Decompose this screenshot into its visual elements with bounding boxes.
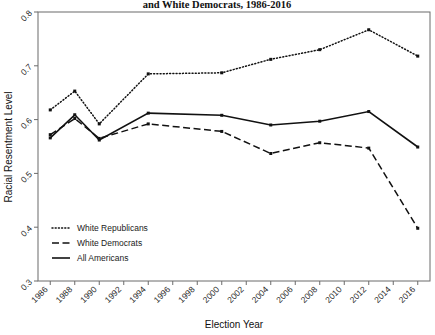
data-point <box>318 48 321 51</box>
data-point <box>147 112 150 115</box>
x-tick-label: 1988 <box>54 284 75 305</box>
data-point <box>220 130 223 133</box>
data-point <box>49 136 52 139</box>
data-point <box>73 117 76 120</box>
data-point <box>269 58 272 61</box>
data-point <box>416 146 419 149</box>
x-tick-label: 2000 <box>201 284 222 305</box>
data-point <box>147 72 150 75</box>
y-tick-label: 0.7 <box>19 62 35 78</box>
x-tick-label: 2014 <box>372 284 393 305</box>
x-tick-label: 2016 <box>397 284 418 305</box>
series-group <box>49 28 420 230</box>
data-point <box>49 108 52 111</box>
data-point <box>367 28 370 31</box>
data-point <box>416 55 419 58</box>
x-tick-label: 1996 <box>152 284 173 305</box>
x-tick-label: 1994 <box>127 284 148 305</box>
chart-legend: White RepublicansWhite DemocratsAll Amer… <box>52 223 148 263</box>
x-tick-label: 2012 <box>348 284 369 305</box>
chart-container: and White Democrats, 1986-2016 0.30.40.5… <box>0 0 435 335</box>
series-line-white-republicans <box>50 30 418 124</box>
data-point <box>98 122 101 125</box>
racial-resentment-line-chart: and White Democrats, 1986-2016 0.30.40.5… <box>0 0 435 335</box>
data-point <box>98 139 101 142</box>
x-tick-label: 2008 <box>299 284 320 305</box>
y-tick-label: 0.4 <box>19 223 35 239</box>
y-axis-title: Racial Resentment Level <box>3 91 14 202</box>
data-point <box>269 152 272 155</box>
series-line-white-democrats <box>50 119 418 229</box>
data-point <box>367 110 370 113</box>
legend-label-all-americans: All Americans <box>77 253 129 263</box>
data-point <box>49 133 52 136</box>
x-tick-label: 2010 <box>323 284 344 305</box>
data-point <box>416 227 419 230</box>
data-point <box>269 123 272 126</box>
y-tick-label: 0.5 <box>19 169 35 185</box>
x-tick-label: 2004 <box>250 284 271 305</box>
legend-label-white-republicans: White Republicans <box>77 223 148 233</box>
data-point <box>73 90 76 93</box>
data-point <box>220 114 223 117</box>
x-axis-title: Election Year <box>205 319 264 330</box>
legend-label-white-democrats: White Democrats <box>77 238 142 248</box>
y-tick-label: 0.8 <box>19 8 35 24</box>
data-point <box>73 113 76 116</box>
x-tick-label: 1986 <box>29 284 50 305</box>
y-tick-label: 0.3 <box>19 277 35 293</box>
data-point <box>318 141 321 144</box>
x-tick-label: 1992 <box>103 284 124 305</box>
data-point <box>147 122 150 125</box>
data-point <box>220 71 223 74</box>
x-tick-label: 1998 <box>176 284 197 305</box>
y-tick-label: 0.6 <box>19 115 35 131</box>
x-axis-ticks: 1986198819901992199419961998200020022004… <box>29 281 418 305</box>
chart-title: and White Democrats, 1986-2016 <box>143 0 292 10</box>
data-point <box>318 120 321 123</box>
x-tick-label: 2002 <box>225 284 246 305</box>
x-tick-label: 1990 <box>78 284 99 305</box>
x-tick-label: 2006 <box>274 284 295 305</box>
y-axis-ticks: 0.30.40.50.60.70.8 <box>19 8 38 293</box>
data-point <box>367 147 370 150</box>
